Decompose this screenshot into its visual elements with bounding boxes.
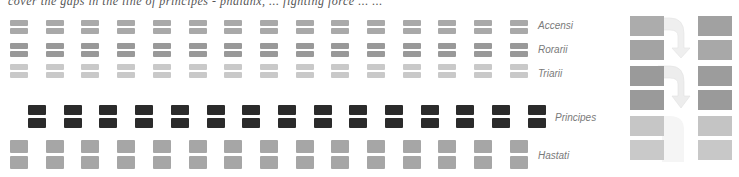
side-left-block [630,116,664,136]
rorarii-maniple-block [403,51,421,57]
hastati-maniple-block [46,156,64,169]
rorarii-maniple-block [331,51,349,57]
principes-maniple-block [528,118,546,128]
accensi-maniple-block [260,28,278,34]
principes-maniple-block [135,118,153,128]
principes-maniple-block [28,105,46,115]
triarii-maniple-block [189,64,207,70]
rorarii-maniple-block [260,51,278,57]
principes-maniple-block [492,118,510,128]
rorarii-maniple-block [438,51,456,57]
rorarii-maniple-block [474,43,492,49]
hastati-maniple-block [367,140,385,153]
triarii-maniple-block [260,72,278,78]
label-accensi: Accensi [538,20,573,31]
principes-maniple-block [99,105,117,115]
triarii-maniple-block [10,72,28,78]
label-triarii: Triarii [538,68,562,79]
principes-maniple-block [314,118,332,128]
accensi-maniple-block [403,20,421,26]
rorarii-maniple-block [117,51,135,57]
rorarii-maniple-block [224,51,242,57]
side-left-block [630,90,664,110]
triarii-maniple-block [189,72,207,78]
hastati-maniple-block [224,140,242,153]
hastati-maniple-block [403,140,421,153]
side-left-block [630,140,664,160]
principes-maniple-block [349,105,367,115]
principes-maniple-block [278,118,296,128]
principes-maniple-block [207,105,225,115]
hastati-maniple-block [331,156,349,169]
rorarii-maniple-block [403,43,421,49]
triarii-maniple-block [46,64,64,70]
hastati-maniple-block [117,156,135,169]
accensi-maniple-block [81,20,99,26]
triarii-maniple-block [296,64,314,70]
principes-maniple-block [456,105,474,115]
triarii-maniple-block [81,64,99,70]
accensi-maniple-block [10,20,28,26]
side-left-block [630,40,664,60]
triarii-maniple-block [331,72,349,78]
triarii-maniple-block [474,64,492,70]
hastati-maniple-block [510,156,528,169]
hastati-maniple-block [260,140,278,153]
rorarii-maniple-block [296,51,314,57]
rorarii-maniple-block [46,51,64,57]
accensi-maniple-block [438,28,456,34]
accensi-maniple-block [474,28,492,34]
side-right-block [698,90,732,110]
accensi-maniple-block [46,28,64,34]
accensi-maniple-block [296,20,314,26]
triarii-maniple-block [153,64,171,70]
side-left-block [630,16,664,36]
triarii-maniple-block [81,72,99,78]
rorarii-maniple-block [81,43,99,49]
accensi-maniple-block [438,20,456,26]
principes-maniple-block [314,105,332,115]
triarii-maniple-block [10,64,28,70]
rorarii-maniple-block [117,43,135,49]
principes-maniple-block [207,118,225,128]
hastati-maniple-block [46,140,64,153]
rorarii-maniple-block [81,51,99,57]
hastati-maniple-block [474,140,492,153]
accensi-maniple-block [260,20,278,26]
rorarii-maniple-block [260,43,278,49]
hastati-maniple-block [296,156,314,169]
side-right-block [698,140,732,160]
accensi-maniple-block [153,28,171,34]
principes-maniple-block [171,118,189,128]
principes-maniple-block [135,105,153,115]
side-left-block [630,66,664,86]
rorarii-maniple-block [189,51,207,57]
accensi-maniple-block [510,20,528,26]
principes-maniple-block [349,118,367,128]
triarii-maniple-block [224,72,242,78]
triarii-maniple-block [46,72,64,78]
hastati-maniple-block [510,140,528,153]
triarii-maniple-block [117,64,135,70]
principes-maniple-block [242,118,260,128]
triarii-maniple-block [438,72,456,78]
hastati-maniple-block [10,140,28,153]
hastati-maniple-block [331,140,349,153]
triarii-maniple-block [510,72,528,78]
accensi-maniple-block [367,20,385,26]
principes-maniple-block [278,105,296,115]
hastati-maniple-block [189,140,207,153]
principes-maniple-block [385,105,403,115]
hastati-maniple-block [296,140,314,153]
rorarii-maniple-block [189,43,207,49]
accensi-maniple-block [117,28,135,34]
rorarii-maniple-block [510,43,528,49]
triarii-maniple-block [510,64,528,70]
accensi-maniple-block [153,20,171,26]
rorarii-maniple-block [510,51,528,57]
rorarii-maniple-block [10,51,28,57]
hastati-maniple-block [10,156,28,169]
accensi-maniple-block [224,28,242,34]
hastati-maniple-block [260,156,278,169]
triarii-maniple-block [367,72,385,78]
